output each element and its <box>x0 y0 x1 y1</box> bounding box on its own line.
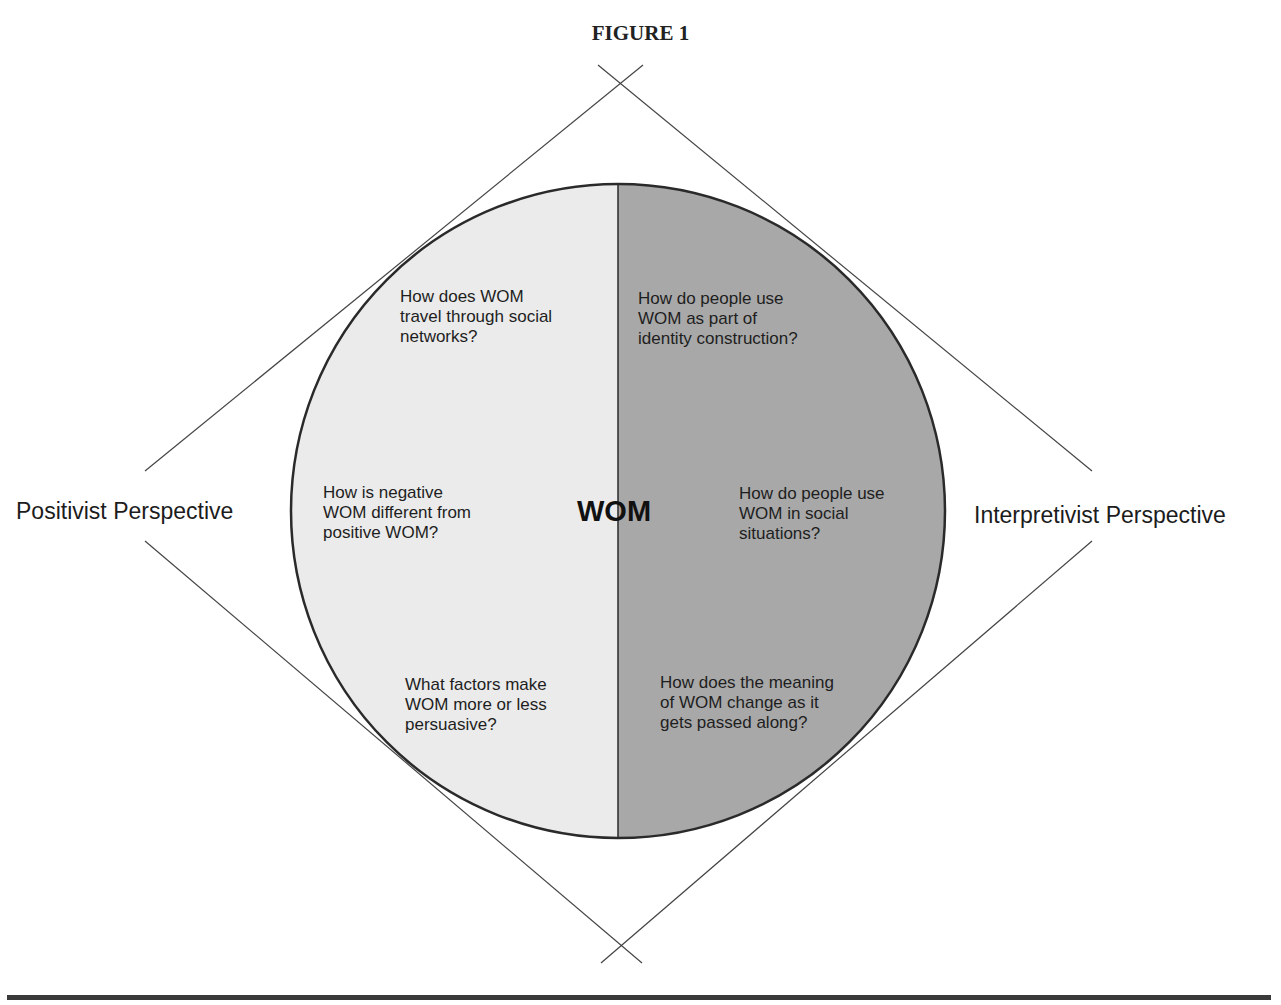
question-social-situations: How do people use WOM in social situatio… <box>739 484 885 544</box>
question-meaning-change: How does the meaning of WOM change as it… <box>660 673 834 733</box>
question-negative-wom: How is negative WOM different from posit… <box>323 483 471 543</box>
bottom-rule <box>7 995 1271 1000</box>
interpretivist-perspective-label: Interpretivist Perspective <box>974 502 1226 529</box>
question-identity-construction: How do people use WOM as part of identit… <box>638 289 798 349</box>
question-social-networks: How does WOM travel through social netwo… <box>400 287 552 347</box>
figure-title: FIGURE 1 <box>0 21 1281 46</box>
center-label-wom: WOM <box>577 495 651 528</box>
question-persuasive-factors: What factors make WOM more or less persu… <box>405 675 547 735</box>
positivist-perspective-label: Positivist Perspective <box>16 498 233 525</box>
